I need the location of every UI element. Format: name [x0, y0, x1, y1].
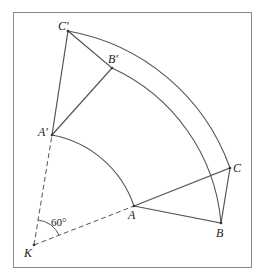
point-B	[220, 222, 223, 225]
point-A-prime	[51, 134, 54, 137]
point-A	[133, 205, 136, 208]
label-A: A	[127, 208, 136, 222]
point-B-prime	[111, 67, 114, 70]
triangle-A-prime-B-prime-C-prime	[52, 31, 112, 135]
label-B-prime: B′	[108, 52, 118, 66]
point-K	[33, 244, 36, 247]
label-B: B	[216, 226, 224, 240]
point-C	[229, 167, 232, 170]
dashed-radius-KA-prime	[34, 135, 52, 245]
label-A-prime: A′	[37, 125, 48, 139]
arc-B-to-B-prime	[112, 68, 221, 223]
label-K: K	[23, 246, 33, 260]
triangle-ABC	[134, 168, 230, 223]
arc-A-to-A-prime	[52, 135, 134, 206]
label-C-prime: C′	[58, 19, 69, 33]
label-C: C	[233, 161, 242, 175]
rotation-diagram: C′ B′ A′ K A B C 60°	[0, 0, 261, 280]
dashed-radius-KA	[34, 206, 134, 245]
angle-label: 60°	[51, 216, 66, 228]
